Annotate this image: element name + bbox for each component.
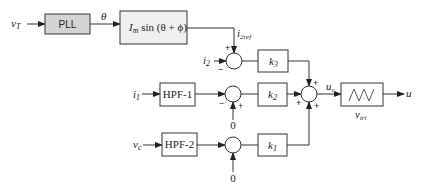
sum2-plus: + bbox=[238, 101, 243, 111]
summing-junction-current bbox=[226, 53, 242, 69]
hpf2-block: HPF-2 bbox=[162, 133, 197, 156]
svg-text:PLL: PLL bbox=[59, 19, 77, 30]
summing-junction-main bbox=[301, 86, 317, 102]
svg-text:vT: vT bbox=[11, 17, 21, 31]
k3-gain-block: k3 bbox=[258, 50, 288, 72]
k1-gain-block: k1 bbox=[258, 134, 287, 156]
zero-input-2: 0 bbox=[230, 172, 236, 184]
input-i2: i2 bbox=[203, 54, 210, 68]
hpf1-block: HPF-1 bbox=[160, 83, 195, 106]
wire-k3-summain bbox=[288, 61, 309, 86]
pll-block: PLL bbox=[45, 14, 90, 34]
vtri-label: vtri bbox=[355, 108, 367, 122]
input-i1: i1 bbox=[133, 88, 140, 102]
sum1-minus: − bbox=[218, 64, 223, 74]
input-vc: vc bbox=[133, 138, 142, 152]
control-block-diagram: vT PLL θ Im sin (θ + ϕ) i2ref + − i2 k3 … bbox=[0, 0, 424, 193]
svg-text:HPF-2: HPF-2 bbox=[165, 138, 194, 150]
summing-junction-hpf1 bbox=[225, 86, 241, 102]
summing-junction-hpf2 bbox=[225, 137, 241, 153]
k2-gain-block: k2 bbox=[258, 83, 287, 106]
uc-label: uc bbox=[326, 80, 336, 94]
zero-input-1: 0 bbox=[230, 119, 236, 131]
input-vT: vT bbox=[11, 17, 21, 31]
i2ref-label: i2ref bbox=[237, 27, 252, 41]
sum2-minus: − bbox=[219, 98, 224, 108]
summain-plus-left: + bbox=[296, 98, 301, 108]
svg-text:HPF-1: HPF-1 bbox=[163, 88, 192, 100]
summain-plus-bottom: + bbox=[314, 101, 319, 111]
sum1-plus: + bbox=[225, 43, 230, 53]
pwm-triangle-block bbox=[341, 83, 383, 106]
sine-reference-block: Im sin (θ + ϕ) bbox=[120, 11, 187, 44]
summain-plus-top: + bbox=[313, 78, 318, 88]
output-u: u bbox=[406, 87, 412, 99]
theta-label: θ bbox=[101, 10, 107, 22]
wire-k1-summain bbox=[287, 102, 309, 145]
